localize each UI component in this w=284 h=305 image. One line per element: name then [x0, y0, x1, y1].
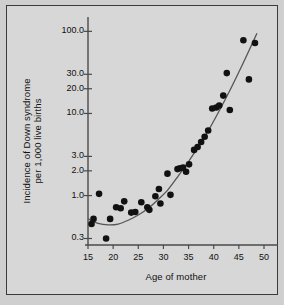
data-point-9 — [132, 209, 139, 216]
x-tick-label: 25 — [126, 252, 150, 262]
data-point-6 — [117, 205, 124, 212]
data-point-26 — [201, 133, 208, 140]
data-points — [88, 37, 258, 242]
x-tick-label: 35 — [177, 252, 201, 262]
x-tick-label: 45 — [227, 252, 251, 262]
y-axis-title: Incidence of Down syndrome per 1,000 liv… — [21, 61, 43, 221]
data-point-36 — [252, 40, 259, 47]
data-point-10 — [138, 199, 145, 206]
data-point-27 — [205, 127, 212, 134]
data-point-31 — [220, 92, 227, 99]
data-point-35 — [246, 76, 253, 83]
data-point-17 — [167, 192, 174, 199]
y-axis-title-line1: Incidence of Down syndrome — [21, 61, 32, 221]
data-point-16 — [164, 170, 171, 177]
data-point-14 — [156, 186, 163, 193]
y-tick-label: 30.0 — [40, 68, 84, 78]
data-point-3 — [103, 235, 110, 242]
data-point-22 — [186, 161, 193, 168]
y-tick-label: 0.3 — [40, 232, 84, 242]
figure-container: 0.31.02.03.010.020.030.0100.0 1520253035… — [0, 0, 284, 305]
data-point-32 — [223, 70, 230, 77]
data-point-34 — [240, 37, 247, 44]
data-point-4 — [107, 216, 114, 223]
y-tick-label: 20.0 — [40, 83, 84, 93]
y-axis-title-line2: per 1,000 live births — [32, 61, 43, 221]
x-tick-label: 50 — [252, 252, 276, 262]
data-point-13 — [152, 193, 159, 200]
data-point-12 — [146, 207, 153, 214]
x-axis-title: Age of mother — [88, 271, 264, 282]
data-point-7 — [121, 198, 128, 205]
x-tick-label: 40 — [202, 252, 226, 262]
data-point-30 — [216, 102, 223, 109]
data-point-33 — [227, 107, 234, 114]
x-tick-label: 30 — [151, 252, 175, 262]
y-tick-label: 1.0 — [40, 190, 84, 200]
data-point-1 — [90, 216, 97, 223]
y-tick-label: 2.0 — [40, 165, 84, 175]
y-tick-label: 3.0 — [40, 150, 84, 160]
y-tick-label: 10.0 — [40, 107, 84, 117]
data-point-15 — [157, 200, 164, 207]
x-tick-label: 20 — [101, 252, 125, 262]
data-point-21 — [183, 168, 190, 175]
x-tick-label: 15 — [76, 252, 100, 262]
data-point-2 — [96, 191, 103, 198]
y-tick-label: 100.0 — [40, 25, 84, 35]
